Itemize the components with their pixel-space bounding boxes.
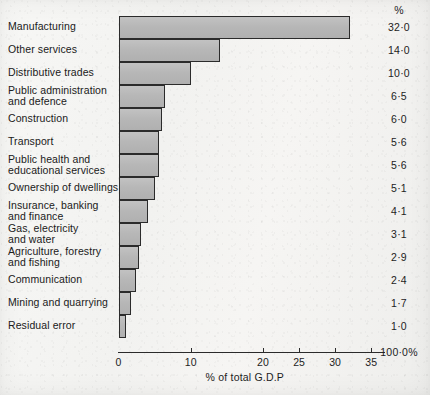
percent-column-header: % — [371, 4, 427, 16]
value-label: 32·0 — [371, 21, 427, 33]
category-label: Public health andeducational services — [8, 154, 120, 176]
bar-mining-and-quarrying — [119, 292, 131, 315]
category-label: Distributive trades — [8, 67, 120, 78]
bar-communication — [119, 269, 136, 292]
value-label: 5·6 — [371, 159, 427, 171]
x-axis-tick — [191, 348, 192, 353]
value-label: 2·4 — [371, 274, 427, 286]
value-label: 1·7 — [371, 297, 427, 309]
category-label: Other services — [8, 44, 120, 55]
bar-insurance-banking-and-finance — [119, 200, 149, 223]
bar-distributive-trades — [119, 62, 191, 85]
x-axis-tick-label: 30 — [320, 356, 350, 368]
x-axis-tick-label: 20 — [248, 356, 278, 368]
category-label: Residual error — [8, 320, 120, 331]
total-value: 100·0% — [364, 346, 430, 358]
value-label: 5·1 — [371, 182, 427, 194]
value-label: 2·9 — [371, 251, 427, 263]
category-label: Construction — [8, 113, 120, 124]
bar-transport — [119, 131, 159, 154]
bar-public-health-and-educational-services — [119, 154, 159, 177]
bar-manufacturing — [119, 16, 350, 39]
bar-public-administration-and-defence — [119, 85, 166, 108]
x-axis-tick — [263, 348, 264, 353]
category-label: Gas, electricityand water — [8, 223, 120, 245]
value-label: 14·0 — [371, 44, 427, 56]
value-label: 3·1 — [371, 228, 427, 240]
bar-construction — [119, 108, 162, 131]
category-label: Ownership of dwellings — [8, 182, 120, 193]
x-axis-tick — [335, 348, 336, 353]
category-label: Manufacturing — [8, 21, 120, 32]
bar-gas-electricity-and-water — [119, 223, 141, 246]
gdp-bar-chart: % Manufacturing32·0Other services14·0Dis… — [0, 0, 430, 395]
category-label: Agriculture, forestryand fishing — [8, 246, 120, 268]
category-label: Communication — [8, 274, 120, 285]
bar-other-services — [119, 39, 220, 62]
bar-ownership-of-dwellings — [119, 177, 156, 200]
category-label: Insurance, bankingand finance — [8, 200, 120, 222]
value-label: 5·6 — [371, 136, 427, 148]
category-label: Transport — [8, 136, 120, 147]
x-axis-title: % of total G.D.P — [109, 371, 382, 383]
x-axis-tick-label: 10 — [176, 356, 206, 368]
bar-agriculture-forestry-and-fishing — [119, 246, 140, 269]
value-label: 6·0 — [371, 113, 427, 125]
x-axis-tick-label: 0 — [104, 356, 134, 368]
x-axis-tick — [299, 348, 300, 353]
category-label: Mining and quarrying — [8, 297, 120, 308]
value-label: 10·0 — [371, 67, 427, 79]
value-label: 4·1 — [371, 205, 427, 217]
category-label: Public administrationand defence — [8, 85, 120, 107]
value-label: 6·5 — [371, 90, 427, 102]
value-label: 1·0 — [371, 320, 427, 332]
x-axis-tick-label: 25 — [284, 356, 314, 368]
